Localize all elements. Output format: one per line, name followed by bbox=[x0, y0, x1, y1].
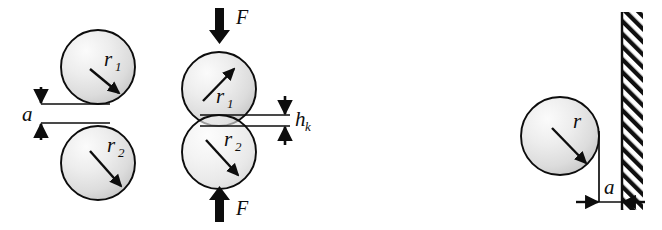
radius-label-r1: r bbox=[216, 84, 225, 108]
left-lower-sphere: r 2 bbox=[61, 126, 135, 200]
sphere-outline bbox=[61, 126, 135, 200]
force-label-bottom: F bbox=[235, 197, 249, 219]
radius-label-r1: r bbox=[104, 47, 113, 71]
wall-hatch-fill bbox=[622, 12, 643, 210]
gap-label-a: a bbox=[604, 175, 615, 199]
left-upper-sphere: r 1 bbox=[61, 30, 135, 104]
figure-root: r 1 r 2 a F bbox=[0, 0, 662, 230]
force-label-top: F bbox=[235, 6, 249, 28]
radius-label-r2: r bbox=[107, 133, 116, 157]
overlap-subscript-k: k bbox=[305, 119, 311, 134]
right-sphere: r bbox=[521, 97, 599, 175]
radius-subscript-r1: 1 bbox=[115, 59, 122, 74]
radius-label-r: r bbox=[573, 109, 582, 133]
radius-subscript-r1: 1 bbox=[227, 96, 234, 111]
hatched-wall bbox=[622, 12, 643, 210]
sphere-outline bbox=[61, 30, 135, 104]
gap-label-a: a bbox=[22, 102, 33, 126]
radius-label-r2: r bbox=[224, 127, 233, 151]
radius-subscript-r2: 2 bbox=[235, 139, 242, 154]
diagram-canvas: r 1 r 2 a F bbox=[0, 0, 662, 230]
radius-subscript-r2: 2 bbox=[118, 145, 125, 160]
overlap-label-h: h bbox=[295, 107, 306, 131]
